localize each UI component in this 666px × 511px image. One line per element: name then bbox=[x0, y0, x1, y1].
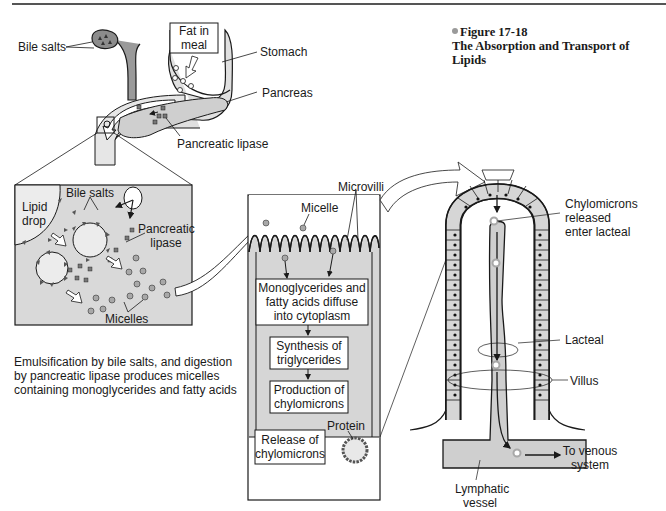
label-lymphatic-vessel: Lymphatic vessel bbox=[455, 482, 505, 510]
villus-panel bbox=[410, 170, 586, 480]
label-fat-in-meal: Fat in meal bbox=[170, 24, 218, 52]
label-microvilli: Microvilli bbox=[338, 180, 384, 194]
step-production: Production of chylomicrons bbox=[270, 383, 348, 411]
label-lipid-drop: Lipid drop bbox=[22, 200, 56, 228]
label-protein: Protein bbox=[327, 419, 365, 433]
label-bile-salts-overview: Bile salts bbox=[18, 40, 66, 54]
label-lacteal: Lacteal bbox=[565, 333, 604, 347]
figure-bullet-icon bbox=[452, 28, 458, 34]
label-pancreatic-lipase-overview: Pancreatic lipase bbox=[177, 137, 268, 151]
label-pancreatic-lipase-panel: Pancreatic lipase bbox=[138, 222, 194, 250]
label-micelles: Micelles bbox=[105, 312, 148, 326]
figure-number: Figure 17-18 bbox=[460, 25, 527, 39]
label-stomach: Stomach bbox=[260, 45, 307, 59]
gallbladder-icon bbox=[92, 30, 118, 49]
label-to-venous-system: To venous system bbox=[560, 444, 620, 472]
step-release: Release of chylomicrons bbox=[255, 433, 325, 461]
label-micelle: Micelle bbox=[301, 201, 338, 215]
chylomicron-icon bbox=[343, 438, 367, 462]
step-diffuse: Monoglycerides and fatty acids diffuse i… bbox=[256, 281, 368, 323]
figure-heading: The Absorption and Transport of Lipids bbox=[452, 39, 666, 67]
emulsification-caption: Emulsification by bile salts, and digest… bbox=[14, 355, 244, 397]
lipid-absorption-diagram bbox=[0, 0, 666, 511]
figure-title: Figure 17-18 The Absorption and Transpor… bbox=[452, 25, 666, 67]
step-synthesis: Synthesis of triglycerides bbox=[270, 339, 348, 367]
label-chylomicrons-enter-lacteal: Chylomicrons released enter lacteal bbox=[565, 197, 635, 239]
label-pancreas: Pancreas bbox=[262, 86, 313, 100]
label-villus: Villus bbox=[570, 374, 598, 388]
label-bile-salts-panel: Bile salts bbox=[66, 186, 114, 200]
